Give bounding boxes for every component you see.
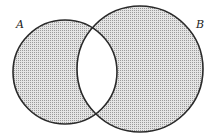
venn-diagram: A B xyxy=(0,0,213,140)
set-a-label: A xyxy=(15,18,24,31)
set-b-label: B xyxy=(195,18,204,31)
